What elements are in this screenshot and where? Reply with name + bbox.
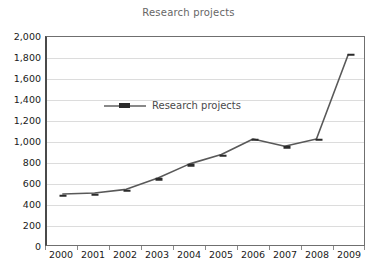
x-tick-label: 2005 — [209, 249, 233, 260]
data-point — [156, 178, 163, 181]
data-point — [60, 194, 67, 197]
chart-legend: Research projects — [104, 100, 241, 111]
data-point — [284, 146, 291, 149]
research-projects-chart: Research projects 02004006008001,0001,20… — [0, 0, 377, 272]
x-tick-label: 2007 — [273, 249, 297, 260]
data-point — [92, 193, 99, 196]
x-tick-label: 2002 — [113, 249, 137, 260]
x-tick-label: 2004 — [177, 249, 201, 260]
x-tick-label: 2006 — [241, 249, 265, 260]
data-point — [252, 139, 259, 142]
x-tick-label: 2008 — [305, 249, 329, 260]
x-tick-label: 2003 — [145, 249, 169, 260]
data-point — [348, 54, 355, 57]
y-axis: 02004006008001,0001,2001,4001,6001,8002,… — [0, 36, 41, 246]
y-tick-label: 1,000 — [0, 136, 41, 147]
x-tick-label: 2000 — [49, 249, 73, 260]
legend-swatch-icon — [104, 101, 146, 110]
x-tick-label: 2001 — [81, 249, 105, 260]
data-point — [316, 139, 323, 142]
y-tick-label: 1,800 — [0, 52, 41, 63]
y-tick-label: 2,000 — [0, 31, 41, 42]
data-point — [188, 164, 195, 167]
legend-label: Research projects — [152, 100, 241, 111]
y-tick-label: 200 — [0, 220, 41, 231]
chart-title: Research projects — [0, 7, 377, 18]
y-tick-label: 1,600 — [0, 73, 41, 84]
y-tick-label: 0 — [0, 241, 41, 252]
plot-area: Research projects — [45, 36, 365, 246]
data-point — [220, 154, 227, 157]
data-point — [124, 190, 131, 193]
y-tick-label: 1,400 — [0, 94, 41, 105]
y-tick-label: 600 — [0, 178, 41, 189]
y-tick-label: 400 — [0, 199, 41, 210]
y-tick-label: 1,200 — [0, 115, 41, 126]
x-tick-label: 2009 — [337, 249, 361, 260]
y-tick-label: 800 — [0, 157, 41, 168]
x-axis: 2000200120022003200420052006200720082009 — [45, 249, 365, 267]
